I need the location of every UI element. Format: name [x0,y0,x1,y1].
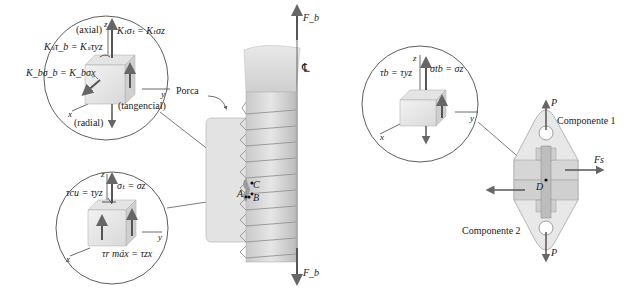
axis-z-label: z [101,170,105,179]
force-p-top-label: P [551,98,557,108]
component-1-label: Componente 1 [557,116,616,126]
point-d-label: D [536,182,543,192]
axis-z-label: z [104,20,108,29]
bending-stress-equation: K_bσ_b = K_bσx [26,68,95,78]
shear-stress-equation: τcu = τyz [66,188,103,198]
axis-z-label: z [413,54,417,63]
point-a-label: A [237,189,243,199]
axis-y-label: y [158,233,162,242]
component-2-label: Componente 2 [462,226,521,236]
tangencial-label: (tangencial) [118,101,166,111]
axis-y-label: y [161,90,165,99]
force-p-bottom-label: P [551,248,557,258]
axis-x-label: x [66,255,70,264]
point-c-label: C [253,180,260,190]
axial-label: (axial) [76,25,102,35]
nut-label: Porca [176,86,199,96]
point-b-label: B [253,193,259,203]
axis-x-label: x [380,133,384,142]
force-fb-bottom-label: F_b [303,268,319,278]
axis-y-label: y [470,114,474,123]
axial-stress-equation: σₜ = σz [117,181,146,191]
centerline-symbol: ℄ [302,62,310,74]
nut-bolt-section [206,10,300,280]
force-fb-top-label: F_b [303,13,319,23]
max-shear-equation: τr máx = τzx [102,249,152,259]
axis-x-label: x [68,110,72,119]
shear-stress-equation: Kₛτ_b = Kₛτyz [44,42,103,52]
force-fs-label: Fs [594,155,604,165]
axial-stress-equation: σtb = σz [430,64,463,74]
shear-stress-equation: τb = τyz [380,68,412,78]
radial-label: (radial) [74,118,103,128]
axial-stress-equation: Kₜσₜ = Kₜσz [117,26,165,36]
